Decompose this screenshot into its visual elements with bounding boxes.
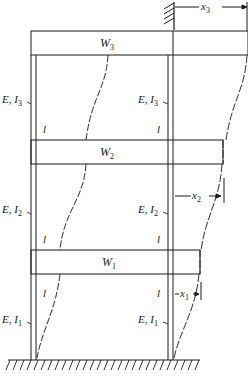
column-label-left-1: E, I1 <box>2 314 22 328</box>
deflected-column-curves <box>37 55 108 358</box>
column-label-left-3: E, I3 <box>2 94 22 108</box>
wall-reference <box>164 2 174 30</box>
slab-w2 <box>31 140 223 164</box>
length-label-right-3: l <box>157 124 160 135</box>
right-columns <box>168 31 173 360</box>
column-label-right-1: E, I1 <box>138 314 158 328</box>
left-columns <box>31 55 36 360</box>
length-label-right-2: l <box>157 234 160 245</box>
mass-label-w2: W2 <box>100 146 114 161</box>
slab-w3 <box>31 31 248 55</box>
mass-label-w3: W3 <box>100 37 114 52</box>
mass-label-w1: W1 <box>102 256 116 271</box>
column-label-right-3: E, I3 <box>138 94 158 108</box>
ground-support <box>6 360 200 370</box>
length-label-right-1: l <box>157 288 160 299</box>
column-label-left-2: E, I2 <box>2 204 22 218</box>
displacement-label-x3: x3 <box>201 1 210 15</box>
displacement-label-x2: x2 <box>192 190 201 204</box>
x3-dimension <box>175 2 247 31</box>
length-label-left-1: l <box>43 288 46 299</box>
column-label-right-2: E, I2 <box>138 204 158 218</box>
shear-building-diagram <box>0 0 248 380</box>
deflected-building-outline <box>174 55 247 358</box>
displacement-label-x1: x1 <box>180 288 189 302</box>
length-label-left-3: l <box>43 124 46 135</box>
length-label-left-2: l <box>43 234 46 245</box>
